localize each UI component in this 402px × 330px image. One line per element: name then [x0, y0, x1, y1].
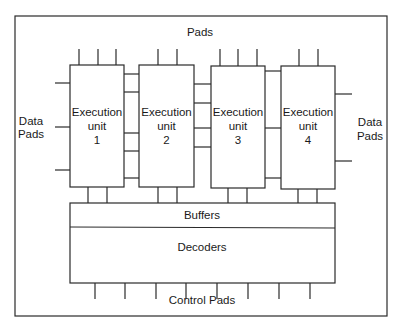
buffers-decoders-block: Buffers Decoders: [70, 203, 335, 283]
svg-text:2: 2: [163, 134, 169, 146]
svg-text:1: 1: [94, 134, 100, 146]
svg-text:Execution: Execution: [213, 106, 264, 118]
buffers-label: Buffers: [184, 209, 220, 221]
svg-text:3: 3: [235, 134, 241, 146]
unit2-unit3-links: [194, 84, 211, 147]
svg-text:unit: unit: [157, 120, 176, 132]
execution-unit-4: Execution unit 4: [281, 66, 335, 189]
unit3-unit4-links: [265, 71, 281, 178]
right-data-label-line2: Pads: [357, 130, 383, 142]
svg-text:Execution: Execution: [141, 106, 192, 118]
top-pads-pins: [79, 49, 318, 66]
svg-text:Execution: Execution: [283, 106, 334, 118]
svg-text:unit: unit: [88, 120, 107, 132]
left-data-pad-stubs: [55, 83, 70, 170]
top-pads-label: Pads: [187, 26, 213, 38]
right-data-label-line1: Data: [358, 116, 383, 128]
left-data-label-line2: Pads: [18, 128, 44, 140]
execution-unit-3: Execution unit 3: [211, 66, 265, 188]
svg-text:unit: unit: [299, 120, 318, 132]
right-data-pad-stubs: [335, 94, 352, 161]
execution-unit-1: Execution unit 1: [70, 65, 124, 187]
left-data-label-line1: Data: [19, 115, 44, 127]
decoders-label: Decoders: [177, 241, 226, 253]
chip-block-diagram: Pads: [0, 0, 402, 330]
unit1-unit2-links: [124, 74, 139, 178]
svg-text:Execution: Execution: [72, 106, 123, 118]
svg-text:unit: unit: [229, 120, 248, 132]
control-pads-label: Control Pads: [169, 294, 236, 306]
execution-unit-2: Execution unit 2: [139, 65, 194, 187]
svg-text:4: 4: [305, 134, 312, 146]
